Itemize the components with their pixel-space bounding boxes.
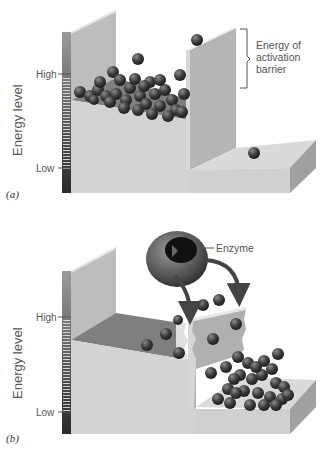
enzyme-lowered-barrier-illustration [0,227,324,454]
energy-barrier-illustration [0,0,324,227]
y-axis-label: Energy level [10,84,25,156]
panel-a-no-enzyme: High Low Energy level Energy of activati… [0,0,324,227]
panel-label: (b) [6,432,19,444]
tick-low: Low [36,163,54,174]
molecule [248,147,260,159]
enzyme-label: Enzyme [216,243,254,254]
panel-b-with-enzyme: High Low Energy level Enzyme (b) [0,227,324,454]
energy-scale-bar [62,32,71,193]
y-axis-label: Energy level [10,327,25,399]
annotation-line-3: barrier [256,64,286,75]
tick-high: High [36,312,57,323]
energy-scale-bar [62,271,71,434]
tick-high: High [36,69,57,80]
activation-bracket [240,29,250,88]
molecule [191,34,203,46]
annotation-line-2: activation [256,52,300,63]
panel-label: (a) [6,188,19,200]
tick-low: Low [36,407,54,418]
annotation-line-1: Energy of [256,40,301,51]
molecule [132,53,144,65]
arrow-icon [205,260,239,295]
